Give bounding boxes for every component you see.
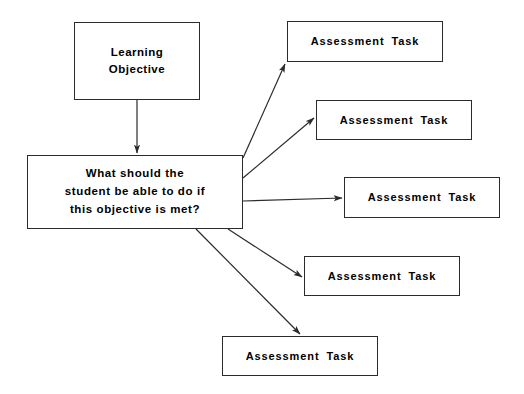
node-assessment-task-4-label: Assessment Task bbox=[328, 269, 437, 284]
node-assessment-task-4[interactable]: Assessment Task bbox=[304, 256, 460, 296]
edge-question-to-task-3 bbox=[243, 198, 342, 201]
node-assessment-task-2[interactable]: Assessment Task bbox=[316, 100, 472, 140]
edge-question-to-task-4 bbox=[228, 229, 302, 277]
node-assessment-task-1[interactable]: Assessment Task bbox=[287, 21, 443, 62]
node-learning-objective-label: Learning Objective bbox=[109, 44, 165, 79]
node-assessment-task-3-label: Assessment Task bbox=[368, 190, 477, 205]
diagram-canvas: Learning Objective What should the stude… bbox=[0, 0, 524, 394]
node-assessment-task-5[interactable]: Assessment Task bbox=[222, 336, 378, 376]
node-guiding-question-label: What should the student be able to do if… bbox=[65, 165, 205, 218]
node-guiding-question[interactable]: What should the student be able to do if… bbox=[27, 155, 243, 229]
node-assessment-task-2-label: Assessment Task bbox=[340, 113, 449, 128]
edge-question-to-task-5 bbox=[196, 229, 300, 334]
edge-question-to-task-2 bbox=[243, 118, 314, 178]
edge-question-to-task-1 bbox=[243, 64, 285, 158]
node-learning-objective[interactable]: Learning Objective bbox=[74, 22, 200, 100]
node-assessment-task-5-label: Assessment Task bbox=[246, 349, 355, 364]
node-assessment-task-3[interactable]: Assessment Task bbox=[344, 177, 500, 218]
node-assessment-task-1-label: Assessment Task bbox=[311, 34, 420, 49]
